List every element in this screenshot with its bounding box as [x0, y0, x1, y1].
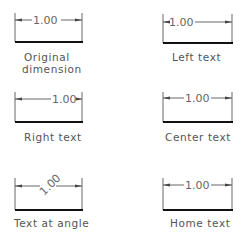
panel-home-text: 1.00 Home text — [163, 178, 233, 229]
panel-right-text: 1.00 Right text — [15, 92, 83, 143]
arrowhead-left-icon — [15, 19, 22, 22]
panel-text-at-angle: 1.00 Text at angle — [13, 172, 89, 229]
arrowhead-right-icon — [75, 19, 82, 22]
arrowhead-right-icon — [225, 21, 232, 24]
arrowhead-left-icon — [163, 184, 170, 187]
caption: Left text — [172, 51, 221, 63]
arrowhead-left-icon — [163, 97, 170, 100]
dimension-value-angled: 1.00 — [37, 172, 64, 199]
arrowhead-right-icon — [225, 97, 232, 100]
caption: Right text — [24, 131, 82, 143]
caption: Home text — [170, 217, 230, 229]
panel-original-dimension: 1.00 Original dimension — [15, 13, 83, 75]
panel-center-text: 1.00 Center text — [163, 92, 233, 143]
dimension-value: 1.00 — [185, 92, 210, 105]
caption: Text at angle — [13, 217, 89, 229]
arrowhead-right-icon — [225, 184, 232, 187]
dimension-value: 1.00 — [33, 14, 58, 27]
dimension-value: 1.00 — [185, 179, 210, 192]
dimension-text-placement-diagram: 1.00 Original dimension 1.00 Left text 1… — [0, 0, 247, 237]
panel-left-text: 1.00 Left text — [163, 14, 233, 63]
caption: Center text — [165, 131, 231, 143]
dimension-value: 1.00 — [52, 93, 77, 106]
dimension-value: 1.00 — [169, 16, 194, 29]
arrowhead-left-icon — [15, 185, 22, 188]
arrowhead-right-icon — [75, 185, 82, 188]
caption: Original — [24, 51, 70, 63]
arrowhead-right-icon — [76, 98, 82, 101]
caption-line-2: dimension — [22, 63, 82, 75]
arrowhead-left-icon — [15, 98, 22, 101]
